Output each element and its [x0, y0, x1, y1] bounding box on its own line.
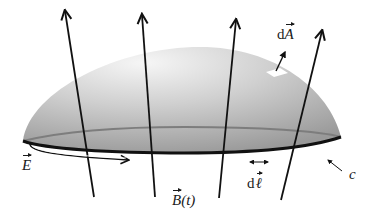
label-dA: dA [277, 27, 294, 42]
faraday-law-diagram [0, 0, 375, 219]
label-dl: d ℓ [247, 176, 262, 191]
label-c: c [349, 167, 356, 182]
label-B-symbol: B [172, 193, 181, 208]
label-E: E [22, 158, 31, 173]
hemisphere-surface [23, 47, 341, 153]
label-dl-prefix: d [247, 175, 255, 191]
label-dl-symbol: ℓ [256, 176, 262, 191]
dome-shell [23, 47, 341, 152]
label-dA-prefix: d [277, 26, 285, 42]
label-B: B(t) [172, 193, 195, 208]
label-E-symbol: E [22, 158, 31, 173]
label-dA-symbol: A [285, 27, 294, 42]
label-B-suffix: (t) [181, 192, 195, 208]
curve-pointer-arrow-icon [328, 160, 342, 171]
